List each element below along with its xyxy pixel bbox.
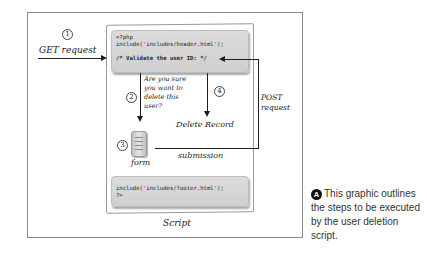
step-2-arrow-line [140,73,141,117]
script-label: Script [163,218,191,228]
step-2-circle: 2 [126,92,137,103]
step-4-arrow-line [207,73,208,112]
code-block-header: <?phpinclude('includes/header.html');/* … [111,30,249,73]
step-3-circle: 3 [117,140,128,151]
confirm-line: Are you sure [144,75,186,84]
code-line: include('includes/footer.html'); [116,185,244,192]
caption-text: This graphic outlines the steps to be ex… [311,188,420,241]
post-loop-top-line [225,59,259,60]
arrow-down-icon [137,116,143,122]
form-icon [131,131,147,157]
confirm-question-label: Are you sure you want to delete this use… [144,75,186,111]
post-line: POST [261,93,290,103]
caption-badge: A [311,189,322,200]
submission-line [155,148,259,149]
step-1-circle: 1 [62,29,73,40]
arrow-down-icon [204,111,210,117]
arrow-right-icon [101,55,107,61]
arrow-left-icon [219,56,225,62]
delete-record-label: Delete Record [176,120,234,129]
get-request-label: GET request [39,45,96,55]
post-loop-vertical-line [258,59,259,149]
code-line: ?> [116,192,244,199]
confirm-line: delete this [144,93,186,102]
confirm-line: you want to [144,84,186,93]
code-block-footer: include('includes/footer.html');?> [111,176,249,207]
post-request-label: POST request [261,93,290,113]
submission-label: submission [178,151,223,160]
code-line: include('includes/header.html'); [116,41,244,48]
get-arrow-line [38,58,102,59]
step-4-circle: 4 [214,86,225,97]
post-line: request [261,103,290,113]
confirm-line: user? [144,102,186,111]
form-label: form [131,158,150,167]
code-line: <?php [116,34,244,41]
figure-caption: AThis graphic outlines the steps to be e… [311,187,423,243]
